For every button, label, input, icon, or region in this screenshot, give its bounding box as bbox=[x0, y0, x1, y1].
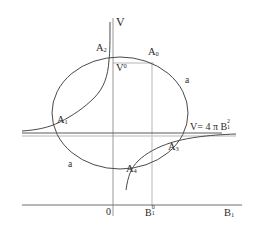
label-v0: V0 bbox=[116, 63, 127, 74]
v-axis-label: V bbox=[116, 16, 125, 28]
label-origin: 0 bbox=[106, 207, 111, 217]
b1-axis-label: B1 bbox=[224, 208, 234, 219]
s-curve-lower-branch bbox=[126, 134, 236, 190]
label-b1-0: B01 bbox=[145, 206, 157, 218]
label-curve-a-right: a bbox=[185, 76, 189, 86]
label-equation: V= 4 π B21 bbox=[190, 120, 232, 132]
label-a2: A2 bbox=[96, 43, 107, 54]
label-a4: A4 bbox=[126, 164, 137, 175]
label-a3: A3 bbox=[168, 142, 179, 153]
label-a1: A1 bbox=[57, 115, 68, 126]
label-curve-a-left: a bbox=[68, 160, 72, 170]
label-a0: A0 bbox=[148, 47, 159, 58]
figure-canvas bbox=[0, 0, 257, 234]
